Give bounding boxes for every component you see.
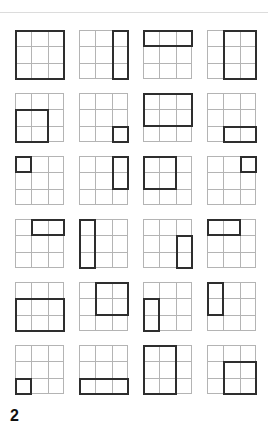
grid-line-horizontal xyxy=(144,63,191,64)
grid-line-horizontal xyxy=(16,361,63,362)
grid-line-horizontal xyxy=(208,109,255,110)
grid-24 xyxy=(207,345,256,394)
highlighted-rectangle xyxy=(223,361,257,395)
highlighted-rectangle xyxy=(143,156,177,190)
grid-3 xyxy=(143,30,192,79)
grid-line-vertical xyxy=(95,157,96,204)
highlighted-rectangle xyxy=(176,235,193,269)
grid-line-horizontal xyxy=(80,109,127,110)
grid-2 xyxy=(79,30,128,79)
grid-1 xyxy=(15,30,64,79)
highlighted-rectangle xyxy=(143,298,160,332)
highlighted-rectangle xyxy=(223,126,257,143)
highlighted-rectangle xyxy=(207,219,241,236)
highlighted-rectangle xyxy=(31,219,65,236)
highlighted-rectangle xyxy=(112,30,129,80)
highlighted-rectangle xyxy=(112,156,129,190)
grid-11 xyxy=(143,156,192,205)
highlighted-rectangle xyxy=(15,298,65,332)
grid-19 xyxy=(143,282,192,331)
highlighted-rectangle xyxy=(79,378,129,395)
grid-12 xyxy=(207,156,256,205)
grid-6 xyxy=(79,93,128,142)
grid-22 xyxy=(79,345,128,394)
grid-4 xyxy=(207,30,256,79)
grid-line-vertical xyxy=(223,157,224,204)
grid-9 xyxy=(15,156,64,205)
grid-23 xyxy=(143,345,192,394)
grid-5 xyxy=(15,93,64,142)
highlighted-rectangle xyxy=(15,109,49,143)
grid-line-vertical xyxy=(159,220,160,267)
grid-line-vertical xyxy=(176,283,177,330)
grid-line-vertical xyxy=(48,157,49,204)
highlighted-rectangle xyxy=(15,378,32,395)
highlighted-rectangle xyxy=(143,30,193,47)
grid-line-horizontal xyxy=(208,252,255,253)
highlighted-rectangle xyxy=(143,93,193,127)
page-number: 2 xyxy=(10,408,19,424)
highlighted-rectangle xyxy=(240,156,257,173)
grid-line-vertical xyxy=(95,31,96,78)
highlighted-rectangle xyxy=(15,30,65,80)
highlighted-rectangle xyxy=(95,282,129,316)
grid-line-vertical xyxy=(48,346,49,393)
highlighted-rectangle xyxy=(223,30,257,80)
grid-10 xyxy=(79,156,128,205)
grid-line-horizontal xyxy=(16,189,63,190)
highlighted-rectangle xyxy=(143,345,177,395)
grid-14 xyxy=(79,219,128,268)
grid-line-vertical xyxy=(95,94,96,141)
grid-line-horizontal xyxy=(16,252,63,253)
grid-18 xyxy=(79,282,128,331)
highlighted-rectangle xyxy=(207,282,224,316)
grid-7 xyxy=(143,93,192,142)
grid-17 xyxy=(15,282,64,331)
grid-15 xyxy=(143,219,192,268)
grid-16 xyxy=(207,219,256,268)
grid-13 xyxy=(15,219,64,268)
highlighted-rectangle xyxy=(79,219,96,269)
grid-21 xyxy=(15,345,64,394)
top-divider xyxy=(0,12,268,13)
grid-line-vertical xyxy=(112,220,113,267)
highlighted-rectangle xyxy=(112,126,129,143)
grid-line-horizontal xyxy=(208,189,255,190)
grid-line-vertical xyxy=(240,283,241,330)
grid-8 xyxy=(207,93,256,142)
grid-20 xyxy=(207,282,256,331)
highlighted-rectangle xyxy=(15,156,32,173)
grid-line-horizontal xyxy=(80,361,127,362)
